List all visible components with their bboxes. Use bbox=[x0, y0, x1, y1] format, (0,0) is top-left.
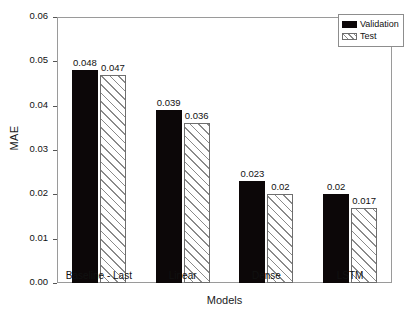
bar-group: 0.0390.036 bbox=[150, 17, 216, 283]
x-axis-category-label: Dense bbox=[225, 270, 309, 281]
x-axis-title: Models bbox=[57, 294, 392, 306]
bar-value-label: 0.02 bbox=[321, 181, 351, 192]
x-axis-category-label: Linear bbox=[141, 270, 225, 281]
y-axis-tick-label: 0.02 bbox=[30, 187, 49, 198]
y-axis-tick-label: 0.00 bbox=[30, 276, 49, 287]
bar-chart-figure: MAE Models 0.000.010.020.030.040.050.06 … bbox=[0, 0, 411, 313]
bar-value-label: 0.017 bbox=[349, 195, 379, 206]
y-axis-tick-label: 0.03 bbox=[30, 143, 49, 154]
bar-group: 0.020.017 bbox=[317, 17, 383, 283]
y-axis-tick-label: 0.06 bbox=[30, 10, 49, 21]
bar-test[interactable] bbox=[184, 123, 210, 283]
bar-test[interactable] bbox=[100, 75, 126, 283]
bar-validation[interactable] bbox=[72, 70, 98, 283]
bar-groups-layer: 0.0480.0470.0390.0360.0230.020.020.017 bbox=[57, 17, 392, 283]
x-axis-category-label: LSTM bbox=[308, 270, 392, 281]
y-axis-title: MAE bbox=[8, 108, 20, 168]
y-axis-tick-label: 0.04 bbox=[30, 99, 49, 110]
bar-value-label: 0.02 bbox=[265, 181, 295, 192]
bar-value-label: 0.036 bbox=[182, 110, 212, 121]
bar-value-label: 0.047 bbox=[98, 62, 128, 73]
x-axis-category-label: Baseline - Last bbox=[57, 270, 141, 281]
y-axis-tick-label: 0.05 bbox=[30, 54, 49, 65]
y-axis-tick-mark bbox=[53, 283, 57, 284]
bar-group: 0.0480.047 bbox=[66, 17, 132, 283]
bar-validation[interactable] bbox=[156, 110, 182, 283]
bar-value-label: 0.023 bbox=[237, 168, 267, 179]
bar-value-label: 0.039 bbox=[154, 97, 184, 108]
y-axis-tick-label: 0.01 bbox=[30, 232, 49, 243]
bar-validation[interactable] bbox=[239, 181, 265, 283]
bar-group: 0.0230.02 bbox=[233, 17, 299, 283]
bar-value-label: 0.048 bbox=[70, 57, 100, 68]
